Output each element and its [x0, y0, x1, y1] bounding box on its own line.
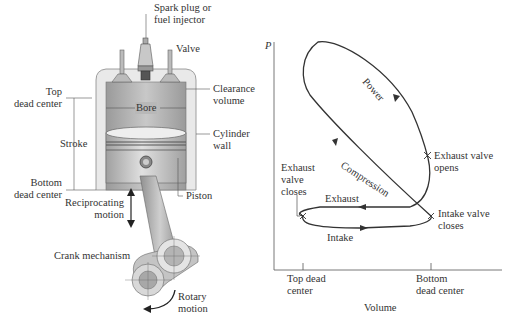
exhaust-label: Exhaust — [325, 193, 359, 205]
clearance-volume-label: Clearancevolume — [213, 83, 255, 107]
exhaust-valve-opens-label: Exhaust valveopens — [434, 150, 493, 174]
piston — [106, 127, 186, 183]
spark-plug-label: Spark plug orfuel injector — [154, 2, 211, 26]
intake-valve-closes-label: Intake valvecloses — [438, 208, 490, 232]
crank-mechanism-label: Crank mechanism — [54, 250, 130, 262]
top-dead-center-label: Topdead center — [4, 86, 62, 110]
x-tick-bottom-dead-center: Bottomdead center — [416, 273, 464, 297]
rotary-arrowhead — [143, 305, 151, 313]
cylinder-wall-label: Cylinderwall — [213, 128, 250, 152]
exhaust-valve-closes-label: Exhaustvalvecloses — [281, 162, 315, 198]
bore-label: Bore — [135, 102, 157, 114]
y-axis-label: P — [265, 40, 271, 52]
power-label: Power — [361, 76, 387, 104]
valve-label: Valve — [176, 43, 200, 55]
x-tick-top-dead-center: Top deadcenter — [287, 273, 326, 297]
pv-cycle-curve — [299, 42, 431, 228]
piston-label: Piston — [186, 190, 212, 202]
stroke-label: Stroke — [60, 138, 87, 150]
intake-label: Intake — [327, 232, 353, 244]
reciprocating-motion-arrow — [127, 188, 135, 228]
x-axis-label: Volume — [364, 302, 396, 314]
reciprocating-motion-label: Reciprocatingmotion — [50, 197, 124, 221]
rotary-motion-label: Rotarymotion — [178, 291, 208, 315]
spark-plug — [138, 14, 153, 80]
